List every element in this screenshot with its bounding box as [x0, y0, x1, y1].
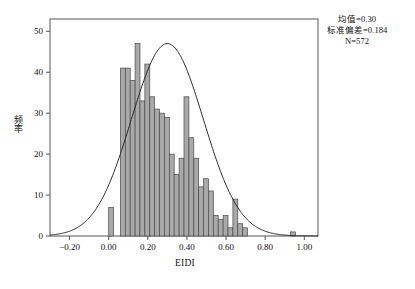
x-axis-tick-label: 0.20 [140, 242, 156, 252]
histogram-bar [184, 97, 189, 236]
x-axis-tick-label: 0.40 [179, 242, 195, 252]
std-annotation: 标准偏差=0.184 [305, 25, 409, 36]
histogram-bar [233, 199, 238, 236]
histogram-bars [109, 44, 296, 236]
statistics-annotation: 均值=0.30 标准偏差=0.184 N=572 [305, 14, 409, 48]
histogram-bar [125, 68, 130, 236]
histogram-bar [145, 64, 150, 236]
histogram-bar [155, 109, 160, 236]
x-axis-tick-label: 1.00 [296, 242, 312, 252]
histogram-bar [130, 80, 135, 236]
x-axis-tick-label: 0.00 [101, 242, 117, 252]
histogram-bar [135, 44, 140, 236]
histogram-bar [189, 138, 194, 236]
y-axis-tick-label: 10 [34, 190, 44, 200]
histogram-bar [194, 158, 199, 236]
histogram-bar [160, 113, 165, 236]
y-axis: 01020304050 [34, 26, 50, 241]
x-axis-tick-label: −0.20 [59, 242, 80, 252]
histogram-bar [109, 207, 114, 236]
x-axis: −0.200.000.200.400.600.801.00 [59, 236, 313, 252]
histogram-bar [238, 224, 243, 236]
histogram-bar [150, 97, 155, 236]
y-axis-tick-label: 0 [39, 231, 44, 241]
histogram-bar [213, 216, 218, 236]
histogram-bar [140, 101, 145, 236]
x-axis-tick-label: 0.80 [257, 242, 273, 252]
histogram-bar [169, 154, 174, 236]
histogram-bar [228, 228, 233, 236]
y-axis-label: 频率 [12, 116, 24, 135]
histogram-bar [243, 228, 248, 236]
y-axis-tick-label: 20 [34, 149, 44, 159]
histogram-bar [179, 158, 184, 236]
x-axis-label: EIDI [50, 258, 320, 268]
mean-annotation: 均值=0.30 [305, 14, 409, 25]
histogram-bar [204, 179, 209, 236]
y-axis-tick-label: 50 [34, 26, 44, 36]
x-axis-tick-label: 0.60 [218, 242, 234, 252]
histogram-bar [223, 216, 228, 236]
histogram-bar [208, 191, 213, 236]
histogram-figure: −0.200.000.200.400.600.801.00 0102030405… [0, 0, 415, 289]
y-axis-tick-label: 30 [34, 108, 44, 118]
histogram-bar [218, 220, 223, 236]
sample-size-annotation: N=572 [305, 36, 409, 47]
histogram-bar [174, 175, 179, 236]
y-axis-tick-label: 40 [34, 67, 44, 77]
histogram-bar [199, 187, 204, 236]
histogram-bar [164, 117, 169, 236]
